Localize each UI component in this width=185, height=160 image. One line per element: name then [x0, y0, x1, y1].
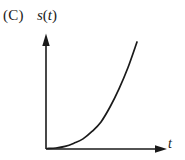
y-axis-arrowhead: [42, 34, 49, 47]
axes-group: [42, 34, 167, 153]
figure-container: (C) s(t) t: [0, 0, 185, 160]
x-axis-arrowhead: [155, 145, 167, 152]
data-curve: [47, 42, 137, 149]
plot-area: [0, 0, 185, 160]
